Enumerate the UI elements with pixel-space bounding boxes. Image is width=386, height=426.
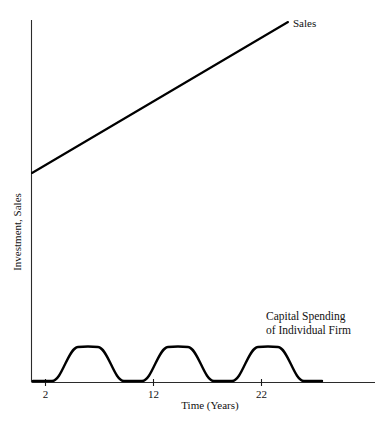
x-tick-label-1: 2 xyxy=(43,388,49,400)
x-tick-label-2: 12 xyxy=(148,388,159,400)
x-tick-label-3: 22 xyxy=(256,388,267,400)
annotation-capex-line1: Capital Spending xyxy=(266,310,346,323)
y-axis-title: Investment, Sales xyxy=(11,193,23,271)
series-label-sales: Sales xyxy=(293,17,316,29)
series-line-capex xyxy=(33,347,322,381)
series-line-sales xyxy=(32,22,288,173)
chart-figure: Sales Capital Spending of Individual Fir… xyxy=(0,0,386,426)
chart-canvas: Sales Capital Spending of Individual Fir… xyxy=(0,0,386,426)
annotation-capex-line2: of Individual Firm xyxy=(266,324,351,336)
x-axis-title: Time (Years) xyxy=(181,399,239,412)
